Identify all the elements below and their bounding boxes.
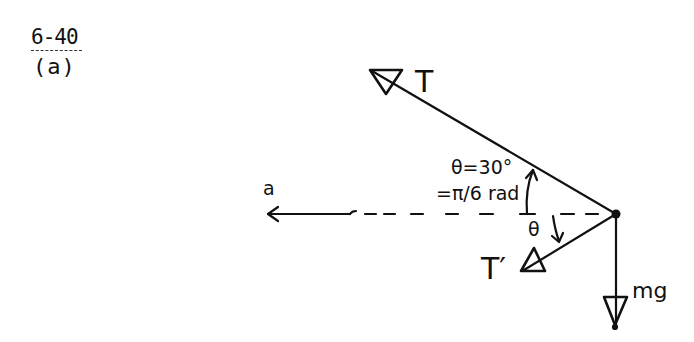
acceleration-arrow-tick bbox=[350, 211, 356, 214]
body-point bbox=[612, 210, 621, 219]
angle-radian-value: =π/6 rad bbox=[436, 184, 519, 203]
tension-T-prime-label: T′ bbox=[481, 254, 506, 284]
force-diagram bbox=[0, 0, 694, 342]
lower-angle-theta-label: θ bbox=[528, 220, 540, 239]
weight-mg-label: mg bbox=[632, 280, 667, 302]
angle-theta-value: θ=30° bbox=[451, 158, 512, 177]
tension-T-label: T bbox=[415, 67, 433, 97]
diagram-canvas: 6-40 (a) bbox=[0, 0, 694, 342]
weight-mg-tip-dot bbox=[613, 325, 617, 329]
acceleration-label: a bbox=[263, 179, 275, 198]
